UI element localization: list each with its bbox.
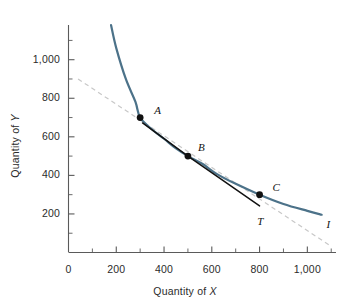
data-point-markers [137,114,263,198]
point-label-b: B [198,141,205,153]
data-point-marker-a [137,114,144,121]
y-tick-label: 1,000 [10,53,60,65]
y-tick-label: 200 [10,207,60,219]
data-point-marker-c [256,191,263,198]
x-axis-ticks [92,247,331,253]
y-axis-title-variable: Y [9,114,21,121]
data-point-marker-b [185,153,192,160]
chart-canvas [0,0,342,304]
x-tick-label: 400 [142,263,186,275]
series-label-t: T [257,215,263,227]
y-axis-ticks [69,40,75,233]
x-axis-title-text: Quantity of [153,285,209,297]
y-tick-label: 800 [10,91,60,103]
x-tick-label: 1,000 [285,263,329,275]
x-axis-title-variable: X [209,285,216,297]
series-label-i: I [326,218,330,230]
point-label-a: A [154,104,161,116]
indifference-curve-figure: 2004006008001,000 02004006008001,000 ABC… [0,0,342,304]
budget-dashed-line [78,79,329,245]
point-label-c: C [273,181,280,193]
x-axis-title: Quantity of X [125,285,245,297]
x-tick-label: 200 [94,263,138,275]
x-tick-label: 800 [238,263,282,275]
y-axis-title-text: Quantity of [9,122,21,178]
tangent-line-T [143,123,260,206]
x-tick-label: 0 [47,263,91,275]
y-axis-title: Quantity of Y [9,103,21,189]
x-tick-label: 600 [190,263,234,275]
